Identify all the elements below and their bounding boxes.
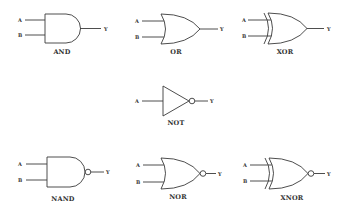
or-gate: A B Y OR [134, 14, 224, 56]
nor-input-a-label: A [135, 162, 140, 168]
or-output-label: Y [219, 26, 224, 32]
xnor-inversion-bubble [308, 171, 314, 177]
and-gate: A B Y AND [17, 14, 108, 56]
xnor-gate: A B Y XNOR [242, 158, 331, 202]
nand-input-a-label: A [17, 161, 22, 167]
xnor-input-a-label: A [242, 162, 247, 168]
logic-gates-diagram: A B Y AND A B Y OR A B Y XOR A Y [0, 0, 351, 213]
or-input-b-label: B [135, 34, 139, 40]
nand-gate-label: NAND [51, 195, 75, 203]
and-input-a-label: A [17, 17, 22, 23]
xor-output-label: Y [326, 26, 331, 32]
xnor-output-label: Y [326, 171, 331, 177]
nand-output-label: Y [105, 169, 110, 175]
nor-output-label: Y [217, 171, 222, 177]
or-gate-body [161, 14, 200, 44]
not-gate-label: NOT [167, 119, 184, 127]
nor-input-b-label: B [136, 179, 140, 185]
xor-input-b-label: B [242, 33, 246, 39]
xor-gate-label: XOR [277, 48, 294, 56]
not-input-a-label: A [134, 98, 139, 104]
nand-gate-body [47, 157, 85, 187]
xor-gate-body [268, 13, 307, 44]
not-gate: A Y NOT [134, 86, 214, 127]
not-gate-body [163, 86, 189, 116]
nor-inversion-bubble [200, 171, 206, 177]
and-input-b-label: B [18, 32, 22, 38]
and-output-label: Y [103, 26, 108, 32]
xor-extra-curve [264, 13, 269, 44]
xor-input-a-label: A [241, 17, 246, 23]
not-output-label: Y [209, 98, 214, 104]
nand-input-b-label: B [18, 177, 22, 183]
xnor-gate-body [269, 158, 308, 189]
nand-gate: A B Y NAND [17, 157, 110, 203]
nor-gate-body [161, 158, 200, 189]
or-input-a-label: A [134, 18, 139, 24]
nor-gate: A B Y NOR [135, 158, 222, 201]
not-inversion-bubble [189, 98, 195, 104]
xnor-gate-label: XNOR [281, 194, 304, 202]
xnor-extra-curve [265, 158, 270, 189]
and-gate-body [45, 14, 81, 43]
or-gate-label: OR [170, 48, 182, 56]
xor-gate: A B Y XOR [241, 13, 331, 56]
nand-inversion-bubble [85, 169, 91, 175]
nor-gate-label: NOR [169, 193, 187, 201]
and-gate-label: AND [52, 48, 70, 56]
xnor-input-b-label: B [243, 178, 247, 184]
